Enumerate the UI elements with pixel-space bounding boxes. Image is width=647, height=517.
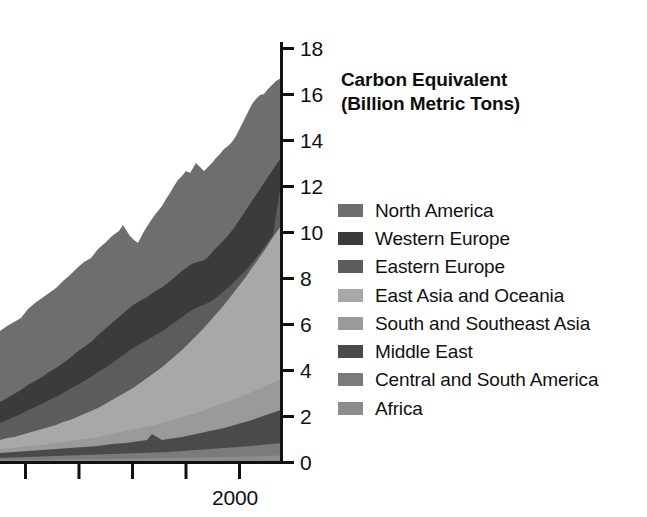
legend-swatch-icon-western-europe: [338, 232, 363, 245]
y-tick-label-2: 2: [300, 406, 311, 427]
y-tick-label-6: 6: [300, 314, 311, 335]
legend-swatch-icon-middle-east: [338, 345, 363, 358]
legend-swatch-icon-africa: [338, 402, 363, 415]
plot-area: 18 16 14 12 10 8 6 4 2 0 2000: [0, 0, 300, 517]
x-axis-ticks: [26, 462, 240, 479]
y-tick-label-12: 12: [300, 176, 323, 197]
legend-label-middle-east: Middle East: [375, 342, 473, 361]
legend-item-central-and-south-america[interactable]: Central and South America: [338, 366, 638, 394]
stacked-area-chart: [0, 0, 300, 517]
legend-label-africa: Africa: [375, 399, 423, 418]
chart-title-line2: (Billion Metric Tons): [341, 92, 520, 116]
legend-label-east-asia-and-oceania: East Asia and Oceania: [375, 286, 564, 305]
legend-swatch-icon-south-and-southeast-asia: [338, 317, 363, 330]
legend-swatch-icon-east-asia-and-oceania: [338, 289, 363, 302]
legend-item-eastern-europe[interactable]: Eastern Europe: [338, 253, 638, 281]
y-tick-label-4: 4: [300, 360, 311, 381]
area-series-group: [0, 78, 281, 462]
legend-item-middle-east[interactable]: Middle East: [338, 337, 638, 365]
chart-title: Carbon Equivalent (Billion Metric Tons): [341, 68, 520, 117]
x-tick-label-2000: 2000: [212, 487, 258, 508]
figure-container: 18 16 14 12 10 8 6 4 2 0 2000 Carbon Equ…: [0, 0, 647, 517]
y-tick-label-8: 8: [300, 268, 311, 289]
y-tick-label-14: 14: [300, 130, 323, 151]
legend-label-south-and-southeast-asia: South and Southeast Asia: [375, 314, 590, 333]
legend-item-north-america[interactable]: North America: [338, 196, 638, 224]
legend-item-western-europe[interactable]: Western Europe: [338, 224, 638, 252]
chart-legend: North America Western Europe Eastern Eur…: [338, 196, 638, 422]
legend-label-western-europe: Western Europe: [375, 229, 510, 248]
legend-swatch-icon-central-and-south-america: [338, 373, 363, 386]
legend-label-central-and-south-america: Central and South America: [375, 370, 598, 389]
y-tick-label-16: 16: [300, 84, 323, 105]
legend-label-eastern-europe: Eastern Europe: [375, 257, 505, 276]
y-tick-label-18: 18: [300, 38, 323, 59]
legend-item-africa[interactable]: Africa: [338, 394, 638, 422]
chart-title-line1: Carbon Equivalent: [341, 68, 520, 92]
y-tick-label-10: 10: [300, 222, 323, 243]
legend-item-east-asia-and-oceania[interactable]: East Asia and Oceania: [338, 281, 638, 309]
legend-item-south-and-southeast-asia[interactable]: South and Southeast Asia: [338, 309, 638, 337]
legend-label-north-america: North America: [375, 201, 493, 220]
y-tick-label-0: 0: [300, 452, 311, 473]
legend-swatch-icon-eastern-europe: [338, 260, 363, 273]
legend-swatch-icon-north-america: [338, 204, 363, 217]
